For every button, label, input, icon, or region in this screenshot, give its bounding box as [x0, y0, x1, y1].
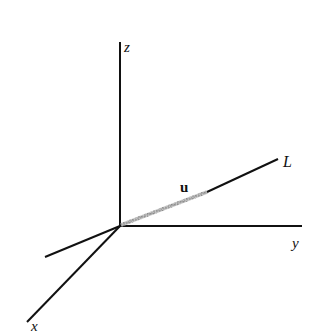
x-axis-label: x: [30, 318, 38, 334]
z-axis-label: z: [123, 39, 130, 55]
line-L: [207, 159, 278, 192]
coordinate-diagram: z y x L u: [0, 0, 330, 336]
vector-u-label: u: [180, 179, 188, 195]
negative-y-axis: [45, 226, 120, 257]
x-axis: [27, 226, 120, 322]
vector-u-texture: [121, 192, 207, 225]
line-L-label: L: [282, 153, 292, 170]
y-axis-label: y: [290, 235, 299, 251]
